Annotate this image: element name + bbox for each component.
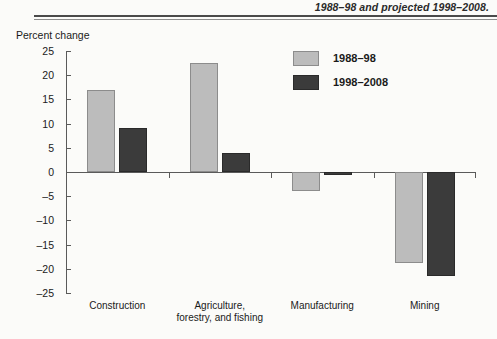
y-tick-label: 15 <box>42 93 54 105</box>
y-tick-label: 10 <box>42 118 54 130</box>
category-tick <box>271 172 272 178</box>
y-tick-mark <box>66 75 71 76</box>
y-tick-label: –5 <box>42 190 54 202</box>
y-tick-mark <box>66 220 71 221</box>
page-title: 1988–98 and projected 1998–2008. <box>315 1 489 13</box>
y-tick-mark <box>66 124 71 125</box>
legend-label: 1988–98 <box>333 52 376 64</box>
y-tick-mark <box>66 99 71 100</box>
bar <box>292 172 320 191</box>
legend-label: 1998–2008 <box>333 76 388 88</box>
y-tick-label: 5 <box>48 142 54 154</box>
bar <box>87 90 115 172</box>
header-rule-thick <box>34 15 497 17</box>
y-tick-label: –25 <box>36 287 54 299</box>
header-rule-thin <box>34 19 497 20</box>
bar <box>222 153 250 172</box>
y-tick-label: –15 <box>36 239 54 251</box>
y-tick-mark <box>66 148 71 149</box>
bar <box>395 172 423 263</box>
y-tick-label: 0 <box>48 166 54 178</box>
y-tick-mark <box>66 245 71 246</box>
plot-area: 2520151050–5–10–15–20–25 <box>66 51 476 293</box>
category-label: Construction <box>66 300 169 312</box>
legend-item: 1998–2008 <box>293 72 388 92</box>
y-tick-mark <box>66 269 71 270</box>
y-tick-label: 25 <box>42 45 54 57</box>
category-tick <box>169 172 170 178</box>
chart-legend: 1988–981998–2008 <box>293 48 388 96</box>
category-label: Agriculture, forestry, and fishing <box>169 300 272 324</box>
y-tick-label: 20 <box>42 69 54 81</box>
legend-item: 1988–98 <box>293 48 388 68</box>
category-tick <box>475 172 476 178</box>
bar <box>119 128 147 172</box>
category-tick <box>374 172 375 178</box>
bar <box>190 63 218 172</box>
y-tick-mark <box>66 196 71 197</box>
bar <box>324 172 352 175</box>
category-label: Mining <box>374 300 477 312</box>
legend-swatch <box>293 75 319 90</box>
legend-swatch <box>293 51 319 66</box>
y-tick-mark <box>66 293 71 294</box>
chart-page: 1988–98 and projected 1998–2008. Percent… <box>0 0 497 339</box>
y-axis-title: Percent change <box>16 29 90 41</box>
bar <box>427 172 455 276</box>
y-tick-mark <box>66 51 71 52</box>
y-tick-label: –10 <box>36 214 54 226</box>
category-label: Manufacturing <box>271 300 374 312</box>
y-tick-label: –20 <box>36 263 54 275</box>
